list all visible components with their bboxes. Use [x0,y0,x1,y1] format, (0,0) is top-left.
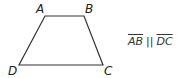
segment-dc: DC [157,35,173,48]
trapezoid-abcd [19,16,103,65]
vertex-label-a: A [35,2,44,16]
parallel-symbol: || [146,35,153,48]
vertex-label-c: C [104,64,113,78]
vertex-label-b: B [85,2,93,16]
parallel-statement: AB||DC [128,35,173,48]
vertex-label-d: D [8,64,17,78]
segment-ab: AB [128,35,143,48]
